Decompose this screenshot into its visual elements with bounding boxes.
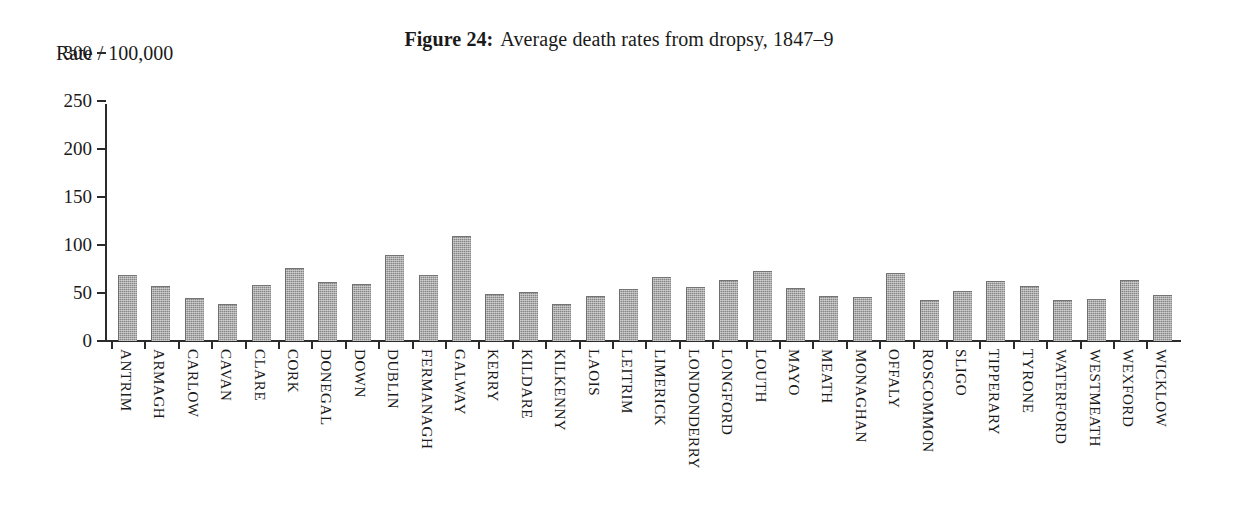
x-tick-dublin [378,342,380,349]
bar-tyrone [1020,286,1039,341]
x-label-tipperary: TIPPERARY [986,349,1001,435]
x-label-laois: LAOIS [586,349,601,396]
bar-waterford [1053,300,1072,341]
x-tick-offaly [879,342,881,349]
x-label-limerick: LIMERICK [652,349,667,426]
x-label-waterford: WATERFORD [1053,349,1068,444]
x-label-roscommon: ROSCOMMON [920,349,935,453]
x-label-offaly: OFFALY [886,349,901,408]
x-tick-down [345,342,347,349]
x-label-dublin: DUBLIN [385,349,400,409]
x-label-leitrim: LEITRIM [619,349,634,414]
x-label-louth: LOUTH [753,349,768,403]
x-label-carlow: CARLOW [185,349,200,418]
x-label-cork: CORK [285,349,300,393]
bar-armagh [151,286,170,341]
x-tick-kerry [478,342,480,349]
bar-down [352,284,371,341]
x-label-armagh: ARMAGH [151,349,166,419]
x-tick-waterford [1046,342,1048,349]
x-tick-wexford [1113,342,1115,349]
bar-kilkenny [552,304,571,341]
x-tick-monaghan [846,342,848,349]
x-tick-londonderry [679,342,681,349]
x-tick-armagh [144,342,146,349]
x-label-westmeath: WESTMEATH [1087,349,1102,447]
bar-wicklow [1153,295,1172,341]
x-tick-fermanagh [412,342,414,349]
x-tick-cork [278,342,280,349]
bar-mayo [786,288,805,341]
x-tick-tipperary [979,342,981,349]
bar-series [0,0,1238,341]
bar-antrim [118,275,137,341]
x-tick-wicklow [1146,342,1148,349]
bar-kildare [519,292,538,341]
x-tick-clare [245,342,247,349]
bar-fermanagh [419,275,438,341]
x-tick-westmeath [1080,342,1082,349]
x-tick-mayo [779,342,781,349]
bar-clare [252,285,271,341]
bar-dublin [385,255,404,341]
bar-galway [452,236,471,341]
x-label-tyrone: TYRONE [1020,349,1035,413]
x-label-cavan: CAVAN [218,349,233,401]
x-tick-kilkenny [545,342,547,349]
bar-limerick [652,277,671,341]
bar-leitrim [619,289,638,341]
x-label-mayo: MAYO [786,349,801,396]
x-tick-tyrone [1013,342,1015,349]
bar-roscommon [920,300,939,341]
bar-monaghan [853,297,872,341]
x-tick-galway [445,342,447,349]
x-tick-laois [579,342,581,349]
bar-meath [819,296,838,341]
x-tick-carlow [178,342,180,349]
x-label-clare: CLARE [252,349,267,401]
x-tick-limerick [645,342,647,349]
x-label-antrim: ANTRIM [118,349,133,412]
x-label-meath: MEATH [819,349,834,404]
figure-dropsy-death-rates: Figure 24:Average death rates from drops… [0,0,1238,531]
x-label-donegal: DONEGAL [318,349,333,426]
bar-laois [586,296,605,341]
x-label-wexford: WEXFORD [1120,349,1135,427]
x-tick-kildare [512,342,514,349]
x-label-galway: GALWAY [452,349,467,415]
x-label-down: DOWN [352,349,367,398]
x-label-londonderry: LONDONDERRY [686,349,701,469]
bar-louth [753,271,772,341]
x-label-wicklow: WICKLOW [1153,349,1168,427]
bar-offaly [886,273,905,341]
bar-wexford [1120,280,1139,341]
x-label-fermanagh: FERMANAGH [419,349,434,449]
bar-cork [285,268,304,341]
x-label-kerry: KERRY [485,349,500,402]
x-tick-roscommon [913,342,915,349]
bar-cavan [218,304,237,341]
x-tick-leitrim [612,342,614,349]
x-tick-sligo [946,342,948,349]
x-label-kilkenny: KILKENNY [552,349,567,431]
x-label-sligo: SLIGO [953,349,968,396]
x-label-longford: LONGFORD [719,349,734,435]
bar-westmeath [1087,299,1106,341]
bar-longford [719,280,738,341]
x-tick-antrim [111,342,113,349]
x-tick-donegal [311,342,313,349]
x-tick-meath [812,342,814,349]
bar-kerry [485,294,504,341]
x-tick-louth [746,342,748,349]
bar-londonderry [686,287,705,341]
bar-tipperary [986,281,1005,341]
x-tick-longford [712,342,714,349]
x-tick-cavan [211,342,213,349]
bar-donegal [318,282,337,341]
x-label-monaghan: MONAGHAN [853,349,868,443]
x-label-kildare: KILDARE [519,349,534,419]
bar-sligo [953,291,972,341]
bar-carlow [185,298,204,341]
chart-plot-area: 050100150200250300 ANTRIMARMAGHCARLOWCAV… [0,0,1238,531]
